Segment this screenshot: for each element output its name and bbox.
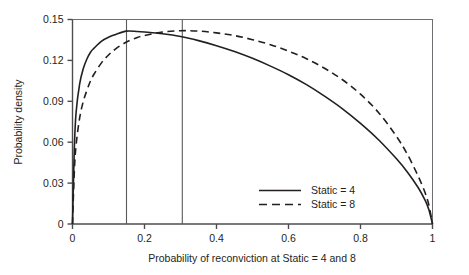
legend-label-static-4: Static = 4 <box>311 184 355 196</box>
y-tick-label: 0.15 <box>43 13 64 25</box>
x-tick-label: 0.2 <box>137 232 152 244</box>
y-tick-label: 0.09 <box>43 95 64 107</box>
x-tick-label: 0 <box>70 232 76 244</box>
x-tick-label: 0.8 <box>353 232 368 244</box>
x-tick-label: 0.6 <box>281 232 296 244</box>
x-tick-label: 0.4 <box>209 232 224 244</box>
y-axis-title: Probability density <box>12 79 24 165</box>
figure-container: 00.030.060.090.120.15 00.20.40.60.81 Pro… <box>0 0 469 275</box>
legend-label-static-8: Static = 8 <box>311 198 355 210</box>
probability-density-chart: 00.030.060.090.120.15 00.20.40.60.81 Pro… <box>0 0 469 275</box>
y-tick-label: 0.03 <box>43 177 64 189</box>
y-tick-label: 0.12 <box>43 54 64 66</box>
x-axis-title: Probability of reconviction at Static = … <box>148 252 356 264</box>
y-tick-label: 0 <box>58 218 64 230</box>
x-tick-label: 1 <box>430 232 436 244</box>
y-tick-label: 0.06 <box>43 136 64 148</box>
